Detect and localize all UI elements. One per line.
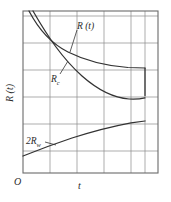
x-axis-title: t: [78, 181, 81, 191]
origin-label: O: [14, 177, 21, 187]
curve-label-2rw: 2Rw: [26, 137, 41, 148]
curve-upper-rt: [29, 11, 145, 68]
curve-label-rt: R (t): [77, 22, 94, 32]
leader-line-rc: [60, 61, 68, 74]
curve-label-rt-text: R (t): [77, 21, 94, 31]
curve-label-rc: Rc: [51, 75, 60, 86]
y-axis-title: R (t): [5, 71, 15, 115]
leader-line-rt: [70, 30, 77, 52]
curve-label-rc-subscript: c: [57, 79, 60, 86]
curve-label-2rw-base: 2R: [26, 136, 37, 146]
curve-label-2rw-subscript: w: [37, 141, 41, 148]
chart-figure: R (t) t O R (t) Rc 2Rw: [0, 0, 171, 202]
